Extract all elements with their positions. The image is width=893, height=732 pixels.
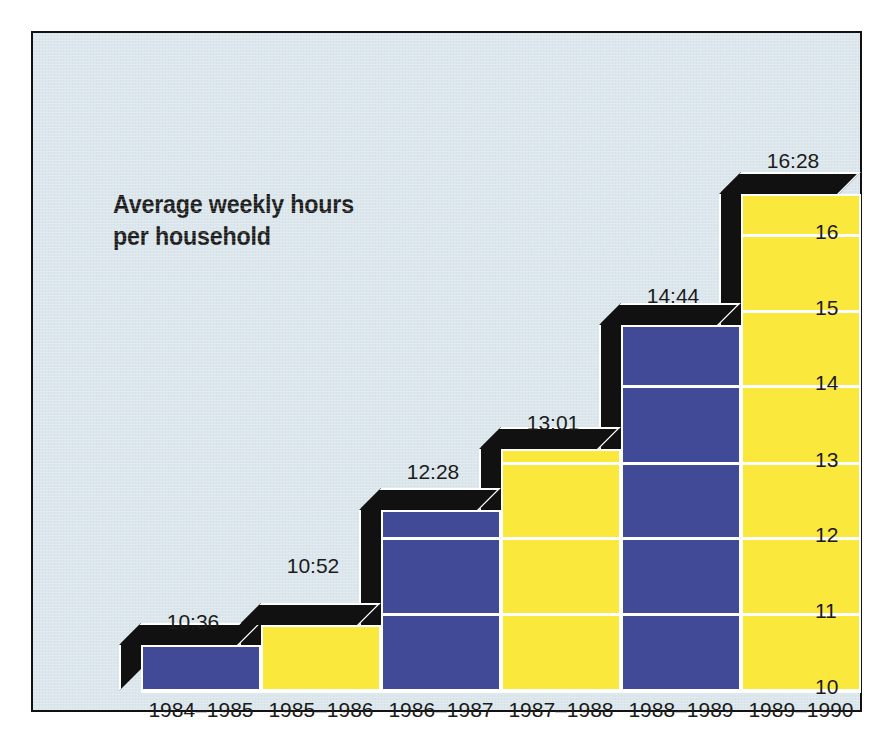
bar-value-label: 16:28 (733, 149, 853, 173)
bar-value-label: 10:36 (133, 610, 253, 634)
y-axis-tick-label: 11 (815, 599, 837, 623)
y-axis-tick-label: 12 (815, 523, 838, 547)
gridline (381, 613, 861, 616)
bar-top-face (239, 603, 381, 625)
gridline (141, 689, 861, 692)
chart-panel: Average weekly hours per household 10:36… (31, 31, 862, 712)
gridline (501, 462, 861, 465)
x-axis-label: 1989–1990 (741, 698, 861, 722)
x-axis-label: 1988–1989 (621, 698, 741, 722)
bar-front-face (741, 194, 861, 693)
bar-front-face (141, 645, 261, 693)
gridline (741, 234, 861, 237)
y-axis-tick-label: 15 (815, 296, 838, 320)
x-axis-label: 1985–1986 (261, 698, 381, 722)
y-axis-tick-label: 10 (815, 675, 838, 699)
bar-front-face (261, 625, 381, 693)
bar-top-face (719, 172, 861, 194)
y-axis-tick-label: 16 (815, 220, 838, 244)
bar-value-label: 14:44 (613, 284, 733, 308)
x-axis-label: 1987–1988 (501, 698, 621, 722)
figure-canvas: Average weekly hours per household 10:36… (0, 0, 893, 732)
bar-value-label: 13:01 (493, 411, 613, 435)
bar-value-label: 10:52 (253, 554, 373, 578)
bar-value-label: 12:28 (373, 460, 493, 484)
bar-front-face (621, 325, 741, 693)
chart-title: Average weekly hours per household (113, 188, 420, 252)
bar-front-face (501, 449, 621, 693)
x-axis-label: 1986–1987 (381, 698, 501, 722)
x-axis-label: 1984–1985 (141, 698, 261, 722)
y-axis-tick-label: 13 (815, 448, 838, 472)
bar-top-face (359, 488, 501, 510)
gridline (741, 310, 861, 313)
y-axis-tick-label: 14 (815, 371, 838, 395)
gridline (381, 537, 861, 540)
plot-area: Average weekly hours per household 10:36… (33, 33, 860, 710)
